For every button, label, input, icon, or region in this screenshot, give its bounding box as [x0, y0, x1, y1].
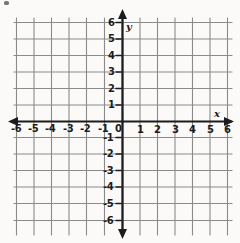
y-tick-label-neg3: -3	[103, 166, 114, 176]
x-tick-label-neg4: -4	[45, 124, 56, 134]
x-tick-label-neg2: -2	[80, 124, 91, 134]
x-tick-label-1: 1	[137, 125, 144, 135]
coordinate-grid-figure: -6 -5 -4 -3 -2 -1 0 1 2 3 4 5 6 6 5 4 3 …	[0, 0, 240, 243]
x-tick-label-3: 3	[172, 125, 179, 135]
y-tick-label-neg5: -5	[103, 199, 114, 209]
x-tick-label-6: 6	[224, 125, 231, 135]
grid-surface	[0, 0, 240, 243]
origin-label: 0	[115, 124, 122, 134]
x-tick-label-neg6: -6	[11, 124, 22, 134]
y-tick-label-5: 5	[108, 34, 115, 44]
x-axis-label: x	[214, 109, 220, 119]
x-tick-label-2: 2	[154, 125, 161, 135]
x-tick-label-5: 5	[207, 125, 214, 135]
x-tick-label-neg5: -5	[28, 124, 39, 134]
y-axis-label: y	[126, 22, 132, 32]
ink-speck	[4, 1, 9, 5]
y-tick-label-neg1: -1	[103, 133, 114, 143]
y-axis-arrow-up	[118, 9, 127, 19]
y-tick-label-6: 6	[108, 18, 115, 28]
x-tick-label-neg3: -3	[63, 124, 74, 134]
y-tick-label-1: 1	[108, 100, 115, 110]
y-tick-label-neg2: -2	[103, 149, 114, 159]
y-tick-label-neg6: -6	[103, 216, 114, 226]
y-tick-label-3: 3	[108, 67, 115, 77]
y-axis-arrow-down	[118, 229, 127, 239]
y-tick-label-2: 2	[108, 84, 115, 94]
y-tick-label-neg4: -4	[103, 182, 114, 192]
y-tick-label-4: 4	[108, 51, 115, 61]
x-tick-label-4: 4	[189, 125, 196, 135]
